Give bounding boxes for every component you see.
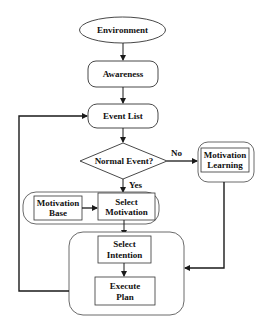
- motivation-learning-node: Motivation Learning: [198, 142, 254, 182]
- arrow-learning-intention: [185, 182, 224, 268]
- select-intention-line2: Intention: [107, 250, 143, 260]
- select-intention-line1: Select: [113, 239, 136, 249]
- no-label: No: [171, 148, 182, 158]
- select-motivation-line2: Motivation: [105, 207, 148, 217]
- normal-event-label: Normal Event?: [95, 156, 154, 166]
- select-motivation-line1: Select: [115, 197, 138, 207]
- awareness-label: Awareness: [103, 69, 144, 79]
- intention-group: Select Intention Execute Plan: [69, 232, 184, 315]
- motivation-group: Motivation Base Select Motivation: [23, 192, 159, 224]
- normal-event-decision: Normal Event?: [80, 143, 167, 179]
- motivation-base-line1: Motivation: [37, 198, 80, 208]
- motivation-learning-line2: Learning: [207, 160, 243, 170]
- execute-plan-line2: Plan: [116, 292, 134, 302]
- execute-plan-line1: Execute: [110, 281, 141, 291]
- event-list-node: Event List: [88, 104, 158, 128]
- event-list-label: Event List: [103, 111, 143, 121]
- awareness-node: Awareness: [88, 61, 158, 87]
- flowchart-canvas: Environment Awareness Event List Normal …: [0, 0, 267, 330]
- environment-node: Environment: [80, 17, 166, 43]
- environment-label: Environment: [97, 25, 148, 35]
- yes-label: Yes: [129, 180, 142, 190]
- motivation-base-line2: Base: [49, 208, 67, 218]
- motivation-learning-line1: Motivation: [204, 150, 247, 160]
